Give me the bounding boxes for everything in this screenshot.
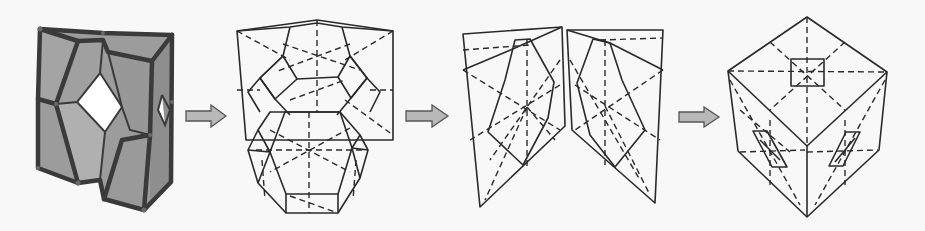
arrow-right-icon bbox=[186, 105, 226, 127]
arrow-right-icon bbox=[679, 107, 719, 127]
step-4-cube bbox=[728, 17, 887, 217]
step-3-mirrored-panels bbox=[463, 27, 663, 207]
step-1-faceted-shell bbox=[36, 27, 174, 213]
left-panel bbox=[463, 27, 565, 207]
diagram-canvas bbox=[0, 0, 925, 231]
step-2-net-with-polyhedron bbox=[237, 20, 393, 213]
gray-face-right bbox=[577, 39, 645, 167]
dark-face-left bbox=[260, 56, 297, 99]
dark-face-right bbox=[338, 56, 367, 98]
right-panel bbox=[567, 30, 663, 203]
arrow-right-icon bbox=[406, 105, 448, 127]
diagram-svg bbox=[0, 0, 925, 231]
